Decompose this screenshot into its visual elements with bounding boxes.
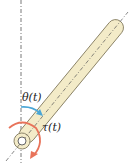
torque-label: τ(t) [42, 121, 61, 134]
rod-diagram: θ(t) τ(t) [0, 0, 133, 163]
angle-label: θ(t) [22, 91, 42, 104]
pivot-icon [18, 137, 26, 145]
